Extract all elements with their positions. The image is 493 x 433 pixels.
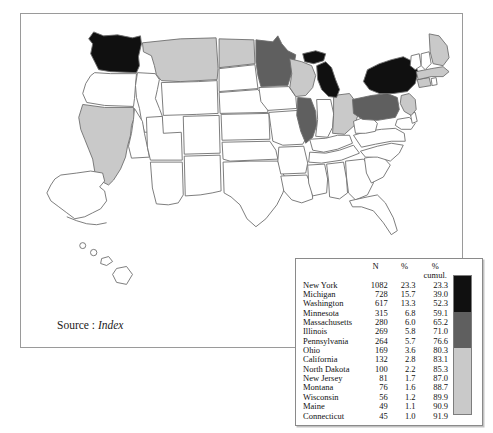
state-new-york [363, 57, 418, 94]
state-washington [89, 32, 142, 73]
state-oregon [83, 73, 137, 107]
state-kansas [221, 113, 270, 140]
state-arkansas [278, 146, 308, 174]
header-state [302, 262, 364, 271]
header-n: N [364, 262, 388, 271]
row-n: 45 [364, 412, 388, 421]
state-south-dakota [219, 65, 258, 92]
state-arizona [150, 162, 183, 205]
ramp-band-low [454, 348, 471, 414]
header-pct: % [388, 262, 416, 271]
state-pennsylvania [352, 94, 399, 121]
state-maine [429, 34, 449, 66]
state-massachusetts [416, 67, 449, 80]
state-colorado [183, 115, 220, 154]
state-michigan-lower [317, 62, 340, 98]
source-label: Source : [57, 319, 95, 331]
state-rhode-island [431, 78, 437, 86]
ramp-band-medium [454, 312, 471, 348]
state-louisiana [281, 175, 313, 203]
state-alaska [47, 171, 107, 219]
state-alabama [327, 162, 348, 199]
color-ramp-legend [453, 275, 472, 415]
state-texas [223, 161, 287, 227]
legend-inner: N % % cumul. New York108223.323.3Michiga… [300, 261, 478, 422]
table-row: Connecticut451.091.9 [302, 412, 448, 421]
state-florida [350, 195, 398, 235]
state-north-dakota [219, 39, 255, 68]
legend-panel: N % % cumul. New York108223.323.3Michiga… [295, 258, 483, 426]
state-michigan-upper [303, 51, 326, 64]
state-vermont [410, 54, 421, 70]
state-indiana [316, 99, 334, 137]
state-oklahoma [222, 141, 278, 161]
statistics-table: N % % cumul. New York108223.323.3Michiga… [302, 262, 448, 421]
ramp-band-high [454, 276, 471, 312]
hawaii-island-1 [80, 243, 86, 249]
alaska-aleutians [67, 217, 107, 225]
row-state-name: Connecticut [302, 412, 364, 421]
state-new-jersey [400, 94, 416, 116]
source-value: Index [98, 319, 124, 331]
state-new-mexico [184, 155, 221, 196]
table-body: New York108223.323.3Michigan72815.739.0W… [302, 281, 448, 421]
hawaii-island-4 [113, 266, 133, 284]
state-utah [146, 116, 182, 160]
hawaii-island-3 [101, 257, 113, 266]
row-cumul: 91.9 [416, 412, 448, 421]
state-wyoming [161, 81, 218, 116]
row-pct: 1.0 [388, 412, 416, 421]
state-wisconsin [290, 59, 316, 97]
hawaii-island-2 [90, 249, 96, 255]
source-caption: Source : Index [57, 319, 123, 331]
state-new-hampshire [421, 52, 431, 70]
table-header: N % % cumul. [302, 262, 448, 281]
